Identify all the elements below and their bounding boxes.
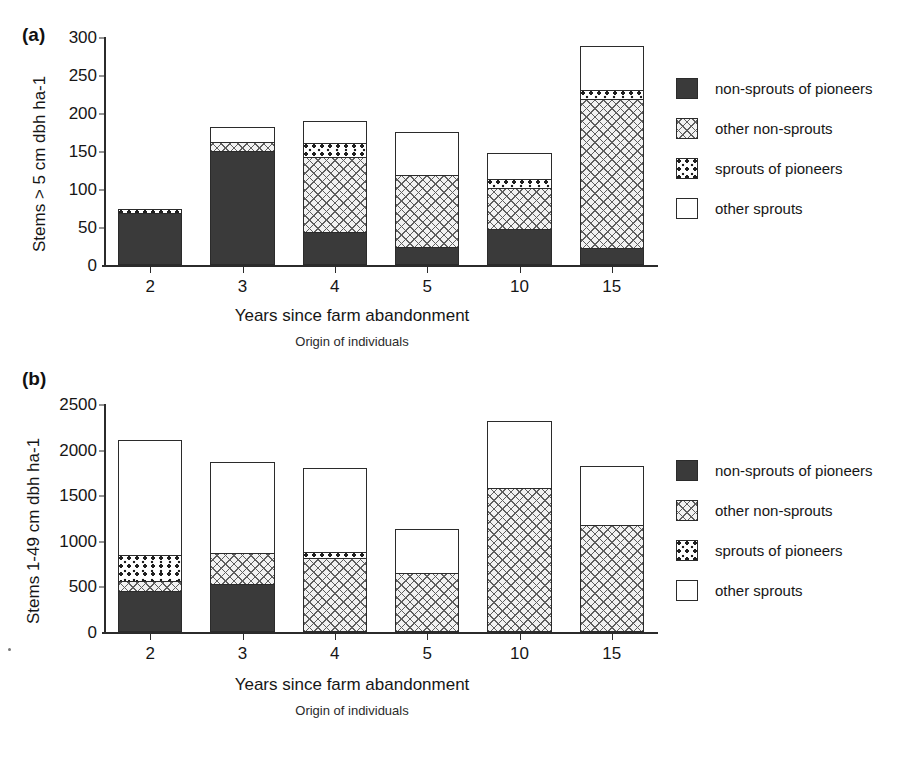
panel-a-legend-swatch-cross-hatch-icon: [676, 118, 698, 139]
panel-b-x-axis-line: [102, 632, 658, 634]
panel-a-x-tick-mark: [612, 267, 613, 273]
panel-a-x-tick-label-10: 10: [510, 277, 529, 297]
panel-a-bar-3: [210, 127, 275, 265]
panel-a-bar-4-segment-dotted: [304, 144, 367, 158]
panel-b: (b) Stems 1-49 cm dbh ha-1 0500100015002…: [0, 372, 902, 757]
panel-a-legend-swatch-solid-dark-icon: [676, 78, 698, 99]
panel-a-x-tick-mark: [520, 267, 521, 273]
panel-a-y-tick-mark: [99, 38, 104, 39]
panel-a-legend-item: other sprouts: [676, 188, 873, 228]
panel-b-legend-swatch-solid-dark-icon: [676, 460, 698, 481]
panel-b-x-tick-label-5: 5: [422, 644, 431, 664]
panel-a-legend-item: non-sprouts of pioneers: [676, 68, 873, 108]
panel-a-bar-4: [303, 121, 368, 265]
panel-b-legend-swatch-dotted-icon: [676, 540, 698, 561]
panel-a-y-tick-mark: [99, 190, 104, 191]
panel-b-bar-3-segment-cross-hatch: [211, 554, 274, 586]
panel-b-x-tick-mark: [335, 634, 336, 640]
panel-a-y-tick-label: 0: [88, 256, 104, 276]
panel-a-x-tick-mark: [335, 267, 336, 273]
panel-b-x-tick-label-4: 4: [330, 644, 339, 664]
panel-a-bar-5-segment-cross-hatch: [396, 176, 459, 247]
panel-b-y-tick-mark: [99, 587, 104, 588]
panel-b-x-tick-mark: [612, 634, 613, 640]
panel-b-bar-15: [580, 466, 645, 632]
panel-a-letter: (a): [22, 24, 45, 46]
panel-b-bar-10: [487, 421, 552, 632]
panel-b-legend-item: sprouts of pioneers: [676, 530, 873, 570]
panel-a-bar-10-segment-cross-hatch: [488, 189, 551, 229]
panel-b-y-tick-mark: [99, 496, 104, 497]
panel-a-x-axis-line: [102, 265, 658, 267]
panel-a-bar-4-segment-white: [304, 122, 367, 144]
panel-b-legend-label: sprouts of pioneers: [715, 542, 843, 559]
panel-b-legend-item: other non-sprouts: [676, 490, 873, 530]
panel-b-y-axis-title: Stems 1-49 cm dbh ha-1: [24, 438, 44, 624]
panel-a-bar-15-segment-dotted: [581, 91, 644, 100]
panel-b-x-tick-label-10: 10: [510, 644, 529, 664]
panel-b-bar-2-segment-cross-hatch: [119, 582, 182, 592]
panel-b-legend-swatch-white-icon: [676, 580, 698, 601]
panel-a-legend-swatch-white-icon: [676, 198, 698, 219]
panel-a-bar-4-segment-solid-dark: [304, 233, 367, 264]
panel-a-bar-3-segment-cross-hatch: [211, 143, 274, 152]
panel-b-x-tick-mark: [150, 634, 151, 640]
panel-a-x-tick-label-2: 2: [145, 277, 154, 297]
panel-b-x-tick-label-2: 2: [145, 644, 154, 664]
panel-a-x-tick-label-15: 15: [602, 277, 621, 297]
panel-b-legend-item: other sprouts: [676, 570, 873, 610]
panel-a-y-tick-mark: [99, 76, 104, 77]
panel-a-bar-10-segment-white: [488, 154, 551, 181]
panel-b-x-tick-label-15: 15: [602, 644, 621, 664]
panel-a-bar-5-segment-solid-dark: [396, 248, 459, 264]
panel-a-legend-label: sprouts of pioneers: [715, 160, 843, 177]
panel-a-x-tick-label-4: 4: [330, 277, 339, 297]
panel-a-bar-3-segment-white: [211, 128, 274, 142]
panel-a-y-tick-mark: [99, 114, 104, 115]
panel-b-x-tick-mark: [520, 634, 521, 640]
panel-b-x-tick-mark: [427, 634, 428, 640]
panel-a-bar-10-segment-solid-dark: [488, 230, 551, 264]
panel-a-bar-10: [487, 153, 552, 265]
panel-a-bar-10-segment-dotted: [488, 180, 551, 189]
panel-b-bar-5-segment-white: [396, 530, 459, 574]
panel-a-y-tick-mark: [99, 228, 104, 229]
panel-a-x-axis-subtitle: Origin of individuals: [295, 334, 408, 349]
panel-b-x-tick-label-3: 3: [238, 644, 247, 664]
panel-b-bar-15-segment-cross-hatch: [581, 526, 644, 631]
panel-b-x-axis-title: Years since farm abandonment: [235, 675, 470, 695]
panel-b-bar-5-segment-cross-hatch: [396, 574, 459, 631]
panel-a-x-tick-label-5: 5: [422, 277, 431, 297]
panel-b-y-tick-mark: [99, 541, 104, 542]
panel-a-plot-area: 05010015020025030023451015: [104, 37, 658, 267]
panel-a-bar-3-segment-solid-dark: [211, 152, 274, 264]
panel-b-legend-label: non-sprouts of pioneers: [715, 462, 873, 479]
panel-b-bar-3-segment-white: [211, 463, 274, 553]
panel-a-legend-label: other sprouts: [715, 200, 803, 217]
panel-b-bar-2: [118, 440, 183, 632]
panel-a-x-tick-label-3: 3: [238, 277, 247, 297]
panel-a-x-axis-title: Years since farm abandonment: [235, 306, 470, 326]
panel-b-y-tick-mark: [99, 450, 104, 451]
panel-b-y-tick-label: 1000: [59, 532, 104, 552]
panel-b-bar-15-segment-white: [581, 467, 644, 526]
panel-b-plot-area: 0500100015002000250023451015: [104, 404, 658, 634]
panel-b-bar-4-segment-white: [304, 469, 367, 553]
panel-b-bar-3-segment-solid-dark: [211, 585, 274, 631]
panel-b-bar-2-segment-dotted: [119, 556, 182, 582]
panel-b-letter: (b): [22, 368, 46, 390]
panel-a-bar-5: [395, 132, 460, 265]
panel-a-bar-2: [118, 209, 183, 265]
panel-a-legend-swatch-dotted-icon: [676, 158, 698, 179]
panel-a-bar-5-segment-white: [396, 133, 459, 176]
panel-b-bar-4-segment-cross-hatch: [304, 559, 367, 631]
panel-a-bar-4-segment-cross-hatch: [304, 158, 367, 232]
panel-a-legend-label: non-sprouts of pioneers: [715, 80, 873, 97]
panel-a-x-tick-mark: [150, 267, 151, 273]
panel-a-y-axis-line: [104, 37, 106, 267]
panel-b-y-tick-label: 2500: [59, 395, 104, 415]
panel-a-bar-15: [580, 46, 645, 265]
panel-b-y-tick-label: 0: [88, 623, 104, 643]
panel-a-x-tick-mark: [427, 267, 428, 273]
panel-b-bar-2-segment-white: [119, 441, 182, 557]
